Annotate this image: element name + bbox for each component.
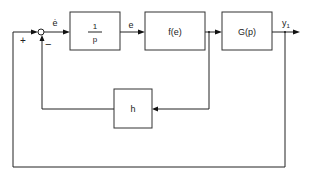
nonlinearity-label: f(e) bbox=[168, 27, 182, 37]
arrow-head-icon bbox=[31, 30, 38, 35]
integrator-denominator: p bbox=[93, 35, 98, 44]
block-diagram: ė 1 p e f(e) G(p) y1 h − + bbox=[0, 0, 311, 176]
integrator-numerator: 1 bbox=[93, 22, 98, 31]
arrow-head-icon bbox=[293, 30, 300, 35]
summing-junction bbox=[38, 29, 44, 35]
label-error-rate: ė bbox=[52, 18, 57, 28]
outer-sign: + bbox=[20, 35, 26, 46]
block-integrator bbox=[70, 12, 120, 50]
inner-sign: − bbox=[45, 38, 51, 50]
arrow-head-icon bbox=[215, 30, 222, 35]
arrow-head-icon bbox=[40, 35, 45, 41]
output-subscript: 1 bbox=[287, 23, 291, 29]
plant-label: G(p) bbox=[238, 27, 256, 37]
arrow-head-icon bbox=[138, 30, 145, 35]
label-output: y1 bbox=[282, 18, 291, 29]
feedback-gain-label: h bbox=[130, 104, 135, 114]
arrow-head-icon bbox=[152, 107, 158, 112]
label-error: e bbox=[128, 20, 133, 30]
arrow-head-icon bbox=[63, 30, 70, 35]
